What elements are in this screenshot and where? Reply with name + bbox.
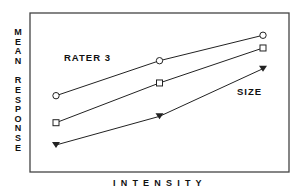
annotation-rater: RATER 3	[64, 52, 111, 63]
circle-marker-icon	[260, 32, 266, 38]
triangle-marker-icon	[52, 142, 60, 148]
circle-marker-icon	[53, 92, 59, 98]
square-marker-icon	[260, 45, 266, 51]
square-marker-icon	[157, 80, 163, 86]
y-axis-label-letter: N	[15, 57, 22, 67]
series-layer	[52, 32, 267, 148]
series-triangle	[52, 66, 267, 148]
x-axis-label: INTENSITY	[113, 178, 207, 188]
annotation-size: SIZE	[237, 86, 262, 97]
y-axis-label: MEANRESPONSE	[12, 28, 24, 153]
circle-marker-icon	[156, 58, 162, 64]
y-axis-label-letter: E	[15, 144, 21, 154]
series-line	[56, 35, 263, 95]
square-marker-icon	[53, 120, 59, 126]
triangle-marker-icon	[156, 113, 164, 119]
series-circle	[53, 32, 266, 99]
triangle-marker-icon	[259, 66, 267, 72]
